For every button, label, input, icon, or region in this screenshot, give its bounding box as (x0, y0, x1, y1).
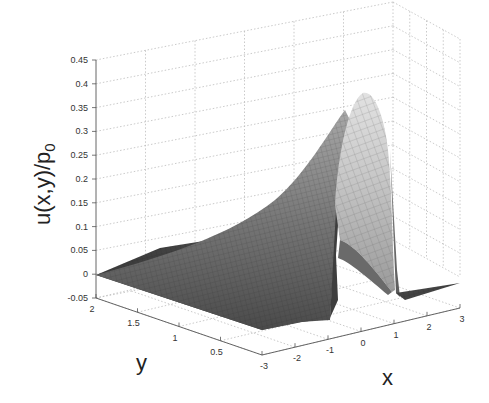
y-tick-label: 2 (89, 304, 94, 314)
surface (96, 93, 460, 330)
surface-plot: 0.450.40.350.30.250.20.150.10.050-0.05 2… (0, 0, 489, 403)
z-tick-label: 0.4 (75, 79, 88, 89)
z-tick-label: 0 (83, 269, 88, 279)
x-tick-label: -3 (260, 361, 268, 371)
x-tick-label: 2 (426, 322, 431, 332)
z-axis-ticks: 0.450.40.350.30.250.20.150.10.050-0.05 (67, 55, 96, 303)
y-tick-label: 1 (172, 333, 177, 343)
z-tick-label: 0.3 (75, 126, 88, 136)
x-tick-label: 3 (459, 314, 464, 324)
z-axis-label: u(x,y)/p0 (30, 143, 58, 225)
x-tick-label: 0 (360, 338, 365, 348)
x-tick-label: 1 (393, 330, 398, 340)
z-tick-label: 0.25 (70, 150, 88, 160)
y-tick-label: 0.5 (210, 347, 223, 357)
z-tick-label: 0.05 (70, 245, 88, 255)
x-axis-label: x (382, 365, 393, 390)
z-tick-label: 0.35 (70, 103, 88, 113)
z-tick-label: -0.05 (67, 293, 88, 303)
z-tick-label: 0.1 (75, 222, 88, 232)
z-tick-label: 0.2 (75, 174, 88, 184)
y-tick-label: 1.5 (127, 318, 140, 328)
z-tick-label: 0.45 (70, 55, 88, 65)
z-tick-label: 0.15 (70, 198, 88, 208)
x-tick-label: -2 (293, 353, 301, 363)
y-axis-label: y (136, 350, 147, 375)
x-tick-label: -1 (326, 345, 334, 355)
